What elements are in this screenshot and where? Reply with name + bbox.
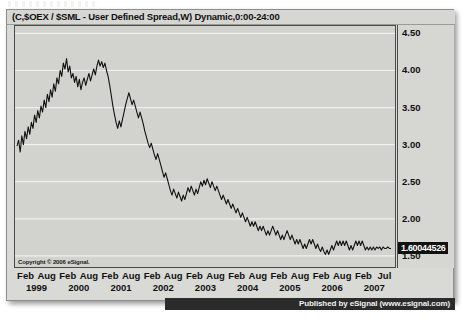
price-tick-label: 4.00	[402, 64, 421, 75]
price-axis[interactable]: 4.504.003.503.002.502.001.50 1.60044526	[397, 25, 454, 268]
price-tick-label: 2.50	[402, 176, 421, 187]
plot-area: Copyright © 2006 eSignal.	[14, 25, 396, 268]
date-tick-year: 2002	[153, 282, 174, 293]
date-tick-month: Feb	[17, 270, 34, 281]
date-tick-year: 2006	[322, 282, 343, 293]
publisher-bar: Published by eSignal (www.esignal.com)	[165, 298, 455, 310]
date-tick-month: Feb	[228, 270, 245, 281]
price-tick-label: 3.50	[402, 102, 421, 113]
date-tick-year: 2004	[237, 282, 258, 293]
chart-figure: (C,$OEX / $SML - User Defined Spread,W) …	[6, 9, 454, 301]
date-tick-year: 2003	[195, 282, 216, 293]
price-line-chart	[15, 26, 395, 267]
date-tick-month: Feb	[102, 270, 119, 281]
date-tick-year: 2001	[110, 282, 131, 293]
date-tick-month: Jul	[378, 270, 392, 281]
date-tick-month: Aug	[164, 270, 182, 281]
date-tick-month: Aug	[206, 270, 224, 281]
date-tick-month: Feb	[186, 270, 203, 281]
current-price-flag: 1.60044526	[398, 242, 448, 254]
date-tick-month: Feb	[144, 270, 161, 281]
date-tick-month: Aug	[291, 270, 309, 281]
date-tick-month: Feb	[313, 270, 330, 281]
date-tick-month: Aug	[37, 270, 55, 281]
price-tick-label: 4.50	[402, 27, 421, 38]
date-tick-month: Feb	[59, 270, 76, 281]
date-tick-month: Aug	[249, 270, 267, 281]
date-tick-month: Feb	[270, 270, 287, 281]
date-tick-year: 1999	[26, 282, 47, 293]
date-tick-month: Aug	[122, 270, 140, 281]
chart-title-bar: (C,$OEX / $SML - User Defined Spread,W) …	[7, 10, 455, 25]
date-tick-month: Feb	[355, 270, 372, 281]
price-tick-label: 2.00	[402, 213, 421, 224]
date-axis[interactable]: Feb1999AugFeb2000AugFeb2001AugFeb2002Aug…	[14, 270, 396, 298]
date-tick-year: 2000	[68, 282, 89, 293]
date-tick-month: Aug	[80, 270, 98, 281]
publisher-credit: Published by eSignal (www.esignal.com)	[299, 299, 450, 308]
scan-artifact	[8, 1, 98, 7]
chart-title: (C,$OEX / $SML - User Defined Spread,W) …	[12, 11, 280, 22]
date-tick-year: 2007	[364, 282, 385, 293]
price-tick-label: 3.00	[402, 139, 421, 150]
copyright-notice: Copyright © 2006 eSignal.	[18, 259, 90, 265]
screenshot-root: (C,$OEX / $SML - User Defined Spread,W) …	[0, 0, 462, 319]
date-tick-month: Aug	[333, 270, 351, 281]
date-tick-year: 2005	[279, 282, 300, 293]
